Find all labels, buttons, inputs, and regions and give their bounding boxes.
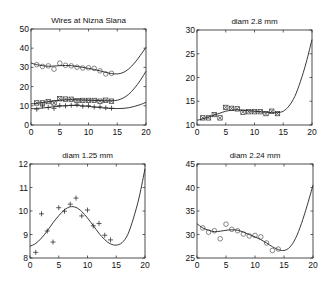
y-tick-label: 50 [20,24,30,34]
subplot-3: diam 1.25 mm0510152089101112 [19,151,150,270]
circle-marker [57,61,62,66]
star-marker [104,98,108,102]
subplot-4: diam 2.24 mm051015202530354045 [186,151,318,270]
y-tick-label: 11 [19,183,28,193]
star-marker [230,107,234,111]
fit-curve [30,169,145,247]
y-tick-label: 40 [20,43,30,53]
circle-marker [224,222,229,227]
subplot-title: Wires at Nizna Slana [51,16,126,25]
star-marker [224,106,228,110]
plus-marker [97,221,102,226]
circle-marker [212,228,217,233]
fit-curve [197,185,313,250]
plus-marker [86,103,91,108]
plus-marker [74,196,79,201]
y-tick-label: 25 [186,49,196,59]
subplot-1: Wires at Nizna Slana0510152001020304050 [20,16,151,137]
axes-box [31,29,146,125]
y-tick-label: 35 [186,206,196,216]
x-tick-label: 10 [83,260,93,270]
plus-marker [33,250,38,255]
plus-marker [39,211,44,216]
subplot-title: diam 2.8 mm [231,17,278,26]
y-tick-label: 8 [23,253,28,263]
circle-marker [75,65,80,70]
y-tick-label: 9 [23,230,28,240]
x-tick-label: 5 [56,260,61,270]
star-marker [52,101,56,105]
y-tick-label: 30 [186,25,196,35]
star-marker [218,116,222,120]
plus-marker [34,107,39,112]
x-tick-label: 0 [195,260,200,270]
x-tick-label: 20 [308,260,318,270]
circle-marker [230,227,235,232]
plus-marker [68,202,73,207]
plus-marker [51,240,56,245]
axes-box [197,30,312,125]
circle-marker [218,236,223,241]
plus-marker [98,104,103,109]
plus-marker [108,237,113,242]
fit-curve [197,40,312,121]
x-tick-label: 10 [84,127,94,137]
y-tick-label: 20 [186,73,196,83]
x-tick-label: 20 [140,260,150,270]
circle-marker [52,67,57,72]
subplot-title: diam 1.25 mm [62,151,113,160]
x-tick-label: 15 [113,127,123,137]
fit-curve [31,71,146,104]
plus-marker [102,233,107,238]
x-tick-label: 0 [195,127,200,137]
plus-marker [85,208,90,213]
y-tick-label: 20 [20,82,30,92]
axes-box [197,164,313,258]
x-tick-label: 5 [223,127,228,137]
x-tick-label: 15 [112,260,122,270]
y-tick-label: 40 [186,183,196,193]
x-tick-label: 10 [250,260,260,270]
x-tick-label: 10 [250,127,260,137]
y-tick-label: 10 [186,120,196,130]
y-tick-label: 25 [186,253,196,263]
subplot-title: diam 2.24 mm [230,151,281,160]
figure-canvas: Wires at Nizna Slana0510152001020304050d… [0,0,333,286]
x-tick-label: 0 [29,127,34,137]
y-tick-label: 15 [186,96,196,106]
x-tick-label: 5 [57,127,62,137]
star-marker [241,110,245,114]
x-tick-label: 20 [307,127,317,137]
y-tick-label: 10 [19,206,29,216]
subplot-2: diam 2.8 mm051015201015202530 [186,17,317,137]
x-tick-label: 15 [279,260,289,270]
circle-marker [40,64,45,69]
circle-marker [270,248,275,253]
figure: Wires at Nizna Slana0510152001020304050d… [0,0,333,286]
y-tick-label: 0 [24,120,29,130]
y-tick-label: 45 [186,159,196,169]
y-tick-label: 30 [186,230,196,240]
x-tick-label: 20 [141,127,151,137]
plus-marker [79,213,84,218]
y-tick-label: 10 [20,101,30,111]
x-tick-label: 0 [28,260,33,270]
y-tick-label: 12 [19,159,29,169]
y-tick-label: 30 [20,62,30,72]
plus-marker [57,103,62,108]
x-tick-label: 5 [224,260,229,270]
x-tick-label: 15 [279,127,289,137]
plus-marker [56,205,61,210]
star-marker [98,99,102,103]
